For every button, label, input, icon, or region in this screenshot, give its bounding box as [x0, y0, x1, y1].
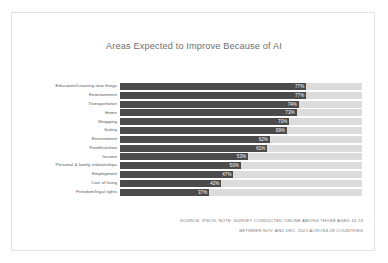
bar-track: 42%	[120, 180, 363, 187]
source-note-line-1: SOURCE: IPSOS; NOTE: SURVEY CONDUCTED ON…	[12, 216, 363, 226]
chart-card: Areas Expected to Improve Because of AI …	[11, 12, 375, 251]
bar-value-label: 73%	[120, 109, 297, 116]
bar-track: 77%	[120, 83, 363, 90]
bar-row: Food/nutrition61%	[26, 145, 362, 152]
bar-category-label: Food/nutrition	[26, 146, 120, 150]
bar-track: 74%	[120, 101, 363, 108]
bar-category-label: Education/Learning new things	[26, 84, 120, 88]
bar-track: 70%	[120, 118, 363, 125]
bar-category-label: Transportation	[26, 102, 120, 106]
bar-track: 62%	[120, 136, 363, 143]
bar-category-label: Entertainment	[26, 93, 120, 97]
bar-row: Employment47%	[26, 171, 362, 178]
source-note: SOURCE: IPSOS; NOTE: SURVEY CONDUCTED ON…	[12, 216, 363, 235]
bar-track: 77%	[120, 92, 363, 99]
bar-category-label: Environment	[26, 137, 120, 141]
bar-row: Cost of living42%	[26, 180, 362, 187]
bar-row: Entertainment77%	[26, 92, 362, 99]
bar-value-label: 62%	[120, 136, 270, 143]
bar-track: 61%	[120, 145, 363, 152]
bar-value-label: 42%	[120, 180, 222, 187]
bar-row: Income53%	[26, 153, 362, 160]
bar-value-label: 47%	[120, 171, 234, 178]
bar-row: Environment62%	[26, 136, 362, 143]
bar-value-label: 69%	[120, 127, 287, 134]
source-note-line-2: BETWEEN NOV. AND DEC. 2021 ACROSS 28 COU…	[12, 226, 363, 236]
bar-value-label: 61%	[120, 145, 268, 152]
bar-category-label: Income	[26, 155, 120, 159]
bar-category-label: Freedom/legal rights	[26, 190, 120, 194]
bar-category-label: Shopping	[26, 120, 120, 124]
bar-category-label: Safety	[26, 128, 120, 132]
bar-chart-plot-area: Education/Learning new things77%Entertai…	[26, 83, 362, 203]
bar-row: Safety69%	[26, 127, 362, 134]
bar-track: 50%	[120, 162, 363, 169]
bar-value-label: 37%	[120, 189, 210, 196]
chart-title: Areas Expected to Improve Because of AI	[12, 41, 376, 51]
bar-row: Home73%	[26, 109, 362, 116]
bar-value-label: 50%	[120, 162, 241, 169]
bar-value-label: 77%	[120, 92, 307, 99]
bar-value-label: 74%	[120, 101, 299, 108]
bar-track: 53%	[120, 153, 363, 160]
bar-row: Shopping70%	[26, 118, 362, 125]
bar-value-label: 53%	[120, 153, 249, 160]
bar-category-label: Employment	[26, 172, 120, 176]
bar-value-label: 77%	[120, 83, 307, 90]
bar-row: Education/Learning new things77%	[26, 83, 362, 90]
bar-row: Transportation74%	[26, 101, 362, 108]
bar-track: 69%	[120, 127, 363, 134]
bar-track: 37%	[120, 189, 363, 196]
bar-track: 73%	[120, 109, 363, 116]
bar-value-label: 70%	[120, 118, 290, 125]
bar-row: Freedom/legal rights37%	[26, 189, 362, 196]
bar-category-label: Home	[26, 111, 120, 115]
bar-category-label: Cost of living	[26, 181, 120, 185]
bar-category-label: Personal & family relationships	[26, 163, 120, 167]
bar-track: 47%	[120, 171, 363, 178]
bar-row: Personal & family relationships50%	[26, 162, 362, 169]
